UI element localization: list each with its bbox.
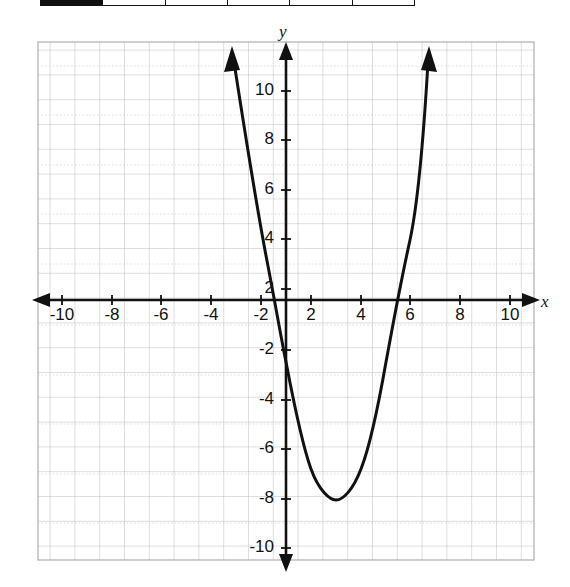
y-axis-label: y [279, 22, 287, 42]
y-tick-label: -10 [228, 537, 274, 557]
y-tick-label: -6 [234, 438, 274, 458]
x-tick-label: 2 [302, 305, 320, 325]
x-tick-label: -10 [45, 305, 79, 325]
y-tick-label: -2 [234, 339, 274, 359]
y-axis-bottom-arrowhead [279, 554, 293, 572]
x-tick-label: -2 [248, 305, 274, 325]
y-tick-label: 8 [240, 129, 274, 149]
x-tick-label: -8 [99, 305, 125, 325]
x-axis-label: x [541, 292, 549, 312]
x-tick-label: 8 [451, 305, 469, 325]
y-tick-label: 10 [240, 80, 274, 100]
coordinate-graph: x y -10 -8 -6 -4 -2 2 4 6 8 10 10 8 6 4 … [0, 0, 570, 587]
x-tick-label: -6 [148, 305, 174, 325]
y-tick-label: 2 [240, 278, 274, 298]
x-tick-label: 10 [496, 305, 524, 325]
y-tick-label: 4 [240, 228, 274, 248]
graph-canvas [0, 0, 570, 587]
x-tick-label: -4 [198, 305, 224, 325]
x-tick-label: 4 [352, 305, 370, 325]
x-tick-label: 6 [401, 305, 419, 325]
y-tick-label: 6 [240, 179, 274, 199]
y-tick-label: -4 [234, 389, 274, 409]
y-tick-label: -8 [234, 488, 274, 508]
